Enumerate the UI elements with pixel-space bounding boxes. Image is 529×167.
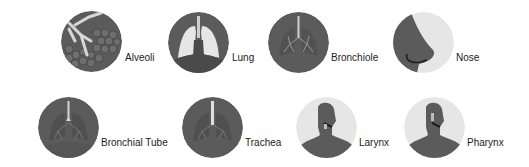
item-label: Larynx: [359, 137, 389, 149]
item-label: Bronchial Tube: [101, 137, 168, 149]
alveoli-icon: [61, 11, 122, 72]
bronchial-tube-icon: [38, 97, 99, 158]
pharynx-icon: [404, 97, 465, 158]
item-label: Lung: [232, 52, 254, 64]
bronchiole-icon: [268, 12, 329, 73]
larynx-icon: [296, 97, 357, 158]
item-label: Bronchiole: [331, 52, 378, 64]
item-label: Nose: [456, 52, 479, 64]
trachea-icon: [182, 97, 243, 158]
item-label: Pharynx: [467, 137, 504, 149]
item-label: Alveoli: [125, 52, 154, 64]
nose-icon: [393, 12, 454, 73]
item-label: Trachea: [245, 137, 281, 149]
lung-icon: [168, 12, 229, 73]
